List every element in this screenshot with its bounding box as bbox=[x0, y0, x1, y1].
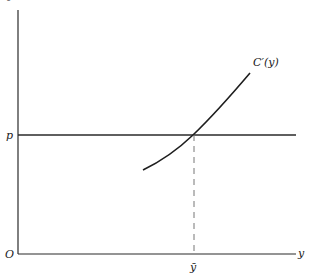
origin-label: O bbox=[5, 248, 14, 261]
marginal-cost-label: C′(y) bbox=[253, 56, 279, 69]
x-axis-label: y bbox=[297, 247, 305, 260]
marginal-cost-curve bbox=[143, 73, 250, 170]
y-bar-label: ȳ bbox=[189, 261, 197, 274]
price-label: p bbox=[6, 129, 13, 142]
figure-title: Figure 19.1 bbox=[0, 0, 45, 1]
figure-canvas: Figure 19.1 p O y ȳ C′(y) bbox=[0, 0, 309, 278]
